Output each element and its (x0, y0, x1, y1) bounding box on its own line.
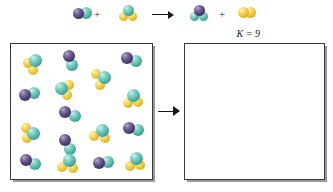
transform-arrow-shaft (158, 111, 174, 112)
plus-sign-reactants: + (94, 9, 100, 20)
purple-atom (123, 122, 135, 134)
plus-sign-products: + (219, 9, 225, 20)
purple-atom (93, 157, 105, 169)
purple-atom (59, 106, 71, 118)
purple-atom (20, 154, 32, 166)
transformation-arrow-icon (158, 106, 180, 116)
teal-atom (63, 154, 76, 167)
purple-atom (63, 50, 75, 62)
purple-atom (121, 52, 133, 64)
purple-atom (19, 89, 31, 101)
teal-atom (98, 71, 111, 84)
equilibrium-mixture-box (184, 43, 325, 180)
reaction-equation: + + (0, 0, 333, 30)
teal-atom (27, 127, 40, 140)
initial-mixture-contents (11, 44, 152, 179)
initial-mixture-box (10, 43, 153, 180)
equilibrium-mixture-contents (185, 44, 324, 179)
teal-atom (123, 5, 134, 16)
yellow-atom (238, 7, 249, 18)
equilibrium-constant-label: K = 9 (237, 28, 260, 39)
arrow-shaft (152, 14, 169, 15)
teal-atom (130, 152, 143, 165)
transform-arrow-head (173, 106, 180, 116)
teal-atom (55, 82, 68, 95)
reaction-arrow-icon (152, 10, 174, 19)
purple-atom (194, 5, 205, 16)
arrow-head (168, 11, 174, 19)
purple-atom (59, 134, 71, 146)
teal-atom (29, 54, 42, 67)
teal-atom (127, 89, 140, 102)
teal-atom (96, 124, 109, 137)
purple-atom (73, 8, 84, 19)
